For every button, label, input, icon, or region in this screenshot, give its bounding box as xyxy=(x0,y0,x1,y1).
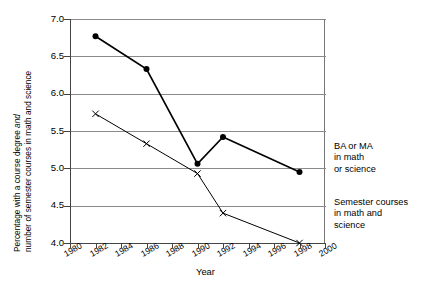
y-axis-title-line1: Percentage with a course degree and xyxy=(12,0,23,252)
legend-ba-line1: BA or MA xyxy=(334,141,376,152)
legend-ba-or-ma: BA or MA in math or science xyxy=(334,141,376,175)
x-axis-title: Year xyxy=(196,266,215,277)
y-axis-title: Percentage with a course degree and numb… xyxy=(0,0,40,260)
gridline xyxy=(71,168,326,169)
y-tick-label: 4.5 xyxy=(38,200,64,210)
legend-sem-line3: science xyxy=(334,220,408,231)
y-tick-label: 5.5 xyxy=(38,126,64,136)
y-tick-label: 6.5 xyxy=(38,51,64,61)
legend-sem-line1: Semester courses xyxy=(334,197,408,208)
gridline xyxy=(71,56,326,57)
legend-sem-line2: in math and xyxy=(334,208,408,219)
y-axis-title-emphasis: and xyxy=(12,114,22,128)
y-tick-label: 6.0 xyxy=(38,88,64,98)
gridline xyxy=(71,94,326,95)
gridline xyxy=(71,19,326,20)
plot-area xyxy=(70,19,325,243)
chart-figure: Percentage with a course degree and numb… xyxy=(0,0,427,284)
y-tick-label: 4.0 xyxy=(38,238,64,248)
y-tick-label: 7.0 xyxy=(38,14,64,24)
y-axis-title-line2: number of semester courses in math and s… xyxy=(23,0,34,252)
legend-ba-line3: or science xyxy=(334,164,376,175)
y-tick-label: 5.0 xyxy=(38,163,64,173)
gridline xyxy=(71,131,326,132)
legend-semester-courses: Semester courses in math and science xyxy=(334,197,408,231)
gridline xyxy=(71,206,326,207)
legend-ba-line2: in math xyxy=(334,152,376,163)
